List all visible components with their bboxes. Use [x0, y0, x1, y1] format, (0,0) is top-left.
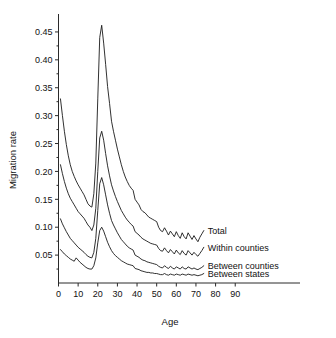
chart-canvas: 0.050.100.150.200.250.300.350.400.45 010…	[0, 0, 336, 338]
x-tick-label: 10	[73, 289, 83, 299]
x-tick-label: 20	[93, 289, 103, 299]
x-tick-label: 0	[56, 289, 61, 299]
x-tick-label: 70	[191, 289, 201, 299]
y-tick-label: 0.15	[35, 195, 53, 205]
y-axis-title: Migration rate	[7, 131, 18, 189]
x-axis-ticks	[59, 283, 236, 287]
x-tick-label: 30	[112, 289, 122, 299]
x-tick-label: 80	[211, 289, 221, 299]
migration-rate-chart: 0.050.100.150.200.250.300.350.400.45 010…	[0, 0, 336, 338]
series-line-total	[60, 25, 203, 241]
series-label-total: Total	[208, 226, 227, 236]
series-label-within-counties: Within counties	[208, 243, 270, 253]
data-curves	[60, 25, 203, 276]
x-tick-label: 40	[132, 289, 142, 299]
x-tick-label: 90	[230, 289, 240, 299]
series-label-between-states: Between states	[208, 269, 270, 279]
y-tick-label: 0.25	[35, 139, 53, 149]
y-axis-tick-labels: 0.050.100.150.200.250.300.350.400.45	[35, 27, 53, 260]
y-tick-label: 0.10	[35, 222, 53, 232]
y-axis-ticks	[55, 32, 59, 269]
series-line-within-counties	[60, 131, 203, 256]
x-axis-tick-labels: 0102030405060708090	[56, 289, 240, 299]
x-tick-label: 60	[171, 289, 181, 299]
series-inline-labels: TotalWithin countiesBetween countiesBetw…	[208, 226, 280, 279]
y-tick-label: 0.30	[35, 111, 53, 121]
y-tick-label: 0.05	[35, 250, 53, 260]
x-tick-label: 50	[152, 289, 162, 299]
y-tick-label: 0.40	[35, 55, 53, 65]
x-axis-title: Age	[162, 316, 179, 327]
y-tick-label: 0.45	[35, 27, 53, 37]
y-tick-label: 0.35	[35, 83, 53, 93]
y-tick-label: 0.20	[35, 167, 53, 177]
